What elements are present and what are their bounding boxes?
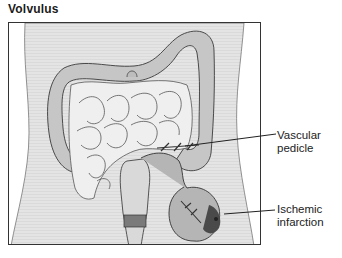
label-vascular-pedicle: Vascular pedicle [277,129,321,155]
illustration-frame [8,22,261,245]
label-ischemic-infarction: Ischemic infarction [277,203,324,229]
figure-title: Volvulus [8,2,59,16]
volvulus-illustration [9,23,261,245]
anal-sphincter [124,215,146,227]
